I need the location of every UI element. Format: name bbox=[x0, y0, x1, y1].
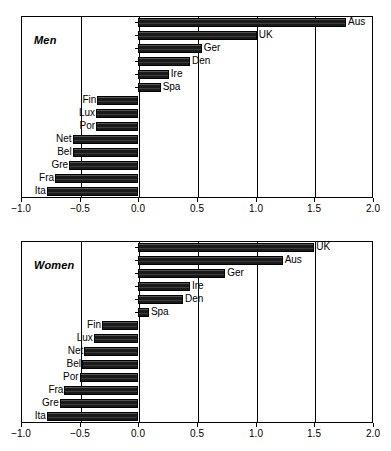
bar-net bbox=[73, 135, 139, 144]
bar-label-uk: UK bbox=[259, 29, 273, 41]
bar-fin bbox=[97, 96, 138, 105]
panel-men: AusUKGerDenIreSpaFinLuxPorNetBelGreFraIt… bbox=[0, 8, 391, 220]
bar-aus bbox=[138, 18, 346, 27]
axis-tick-label: −1.0 bbox=[1, 203, 41, 215]
bar-row: Lux bbox=[21, 109, 373, 122]
bar-row: Den bbox=[21, 57, 373, 70]
bar-gre bbox=[60, 399, 139, 408]
bar-label-gre: Gre bbox=[51, 159, 68, 171]
bar-fra bbox=[55, 174, 138, 183]
top-cut-text bbox=[0, 0, 391, 7]
bar-label-fin: Fin bbox=[87, 319, 101, 331]
bar-label-net: Net bbox=[68, 345, 84, 357]
bar-ire bbox=[138, 282, 190, 291]
bar-label-ire: Ire bbox=[171, 68, 183, 80]
bar-bel bbox=[73, 148, 139, 157]
bar-label-spa: Spa bbox=[163, 81, 181, 93]
bar-row: Den bbox=[21, 295, 373, 308]
bar-bel bbox=[82, 360, 138, 369]
axis-tick-label: 0.0 bbox=[118, 428, 158, 440]
axis-tick bbox=[256, 198, 257, 202]
axis-tick-label: 2.0 bbox=[353, 203, 391, 215]
bar-label-lux: Lux bbox=[79, 107, 95, 119]
bar-label-uk: UK bbox=[316, 241, 330, 253]
bar-label-aus: Aus bbox=[285, 254, 302, 266]
bar-row: Fra bbox=[21, 386, 373, 399]
bar-label-bel: Bel bbox=[67, 358, 81, 370]
bar-label-net: Net bbox=[56, 133, 72, 145]
bar-label-fra: Fra bbox=[48, 384, 63, 396]
bar-label-fra: Fra bbox=[39, 172, 54, 184]
bar-label-por: Por bbox=[63, 371, 79, 383]
bar-fra bbox=[64, 386, 138, 395]
bar-label-ita: Ita bbox=[35, 185, 46, 197]
bar-row: Por bbox=[21, 373, 373, 386]
panel-women: UKAusGerIreDenSpaFinLuxNetBelPorFraGreIt… bbox=[0, 233, 391, 445]
bar-uk bbox=[138, 243, 314, 252]
axis-tick-label: 1.5 bbox=[294, 428, 334, 440]
bar-row: Net bbox=[21, 135, 373, 148]
bar-ita bbox=[47, 187, 139, 196]
bar-label-fin: Fin bbox=[82, 94, 96, 106]
axis-tick-label: −0.5 bbox=[60, 203, 100, 215]
bar-den bbox=[138, 295, 183, 304]
bar-ger bbox=[138, 44, 201, 53]
axis-stub bbox=[135, 35, 138, 36]
axis-tick-label: −1.0 bbox=[1, 428, 41, 440]
bar-ger bbox=[138, 269, 225, 278]
bar-gre bbox=[69, 161, 138, 170]
axis-tick bbox=[138, 423, 139, 427]
bar-label-ger: Ger bbox=[227, 267, 244, 279]
axis-tick bbox=[197, 198, 198, 202]
bar-label-gre: Gre bbox=[42, 397, 59, 409]
axis-tick-label: 1.5 bbox=[294, 203, 334, 215]
bar-uk bbox=[138, 31, 257, 40]
axis-tick bbox=[21, 198, 22, 202]
axis-tick-label: 1.0 bbox=[236, 203, 276, 215]
axis-stub bbox=[135, 48, 138, 49]
panel-label-men: Men bbox=[34, 34, 57, 46]
axis-tick-label: −0.5 bbox=[60, 428, 100, 440]
bar-label-por: Por bbox=[80, 120, 96, 132]
bar-row: Fin bbox=[21, 321, 373, 334]
axis-stub bbox=[135, 22, 138, 23]
bar-row: Aus bbox=[21, 18, 373, 31]
bar-label-spa: Spa bbox=[151, 306, 169, 318]
axis-tick bbox=[80, 198, 81, 202]
axis-tick-label: 0.5 bbox=[177, 428, 217, 440]
bar-lux bbox=[96, 109, 138, 118]
bar-por bbox=[80, 373, 139, 382]
bar-label-bel: Bel bbox=[57, 146, 71, 158]
bar-aus bbox=[138, 256, 282, 265]
axis-stub bbox=[135, 61, 138, 62]
bar-fin bbox=[102, 321, 138, 330]
bar-label-den: Den bbox=[185, 293, 203, 305]
axis-tick-labels-women: −1.0−0.50.00.51.01.52.0 bbox=[0, 427, 391, 441]
bar-net bbox=[84, 347, 138, 356]
axis-tick bbox=[373, 423, 374, 427]
panel-label-women: Women bbox=[34, 259, 75, 271]
bar-label-ger: Ger bbox=[204, 42, 221, 54]
bar-row: Gre bbox=[21, 161, 373, 174]
axis-stub bbox=[135, 299, 138, 300]
bar-label-aus: Aus bbox=[348, 16, 365, 28]
bar-den bbox=[138, 57, 190, 66]
axis-tick-label: 1.0 bbox=[236, 428, 276, 440]
bar-row: Fin bbox=[21, 96, 373, 109]
axis-tick-label: 2.0 bbox=[353, 428, 391, 440]
bar-por bbox=[96, 122, 138, 131]
bar-ire bbox=[138, 70, 169, 79]
bar-row: Spa bbox=[21, 308, 373, 321]
axis-stub bbox=[135, 74, 138, 75]
axis-stub bbox=[135, 247, 138, 248]
bar-row: Bel bbox=[21, 148, 373, 161]
bar-spa bbox=[138, 308, 149, 317]
bar-label-ire: Ire bbox=[192, 280, 204, 292]
axis-tick bbox=[138, 198, 139, 202]
bar-row: Ire bbox=[21, 70, 373, 83]
axis-tick bbox=[21, 423, 22, 427]
axis-tick bbox=[314, 423, 315, 427]
bar-ita bbox=[47, 412, 139, 421]
bar-row: Spa bbox=[21, 83, 373, 96]
axis-stub bbox=[135, 260, 138, 261]
